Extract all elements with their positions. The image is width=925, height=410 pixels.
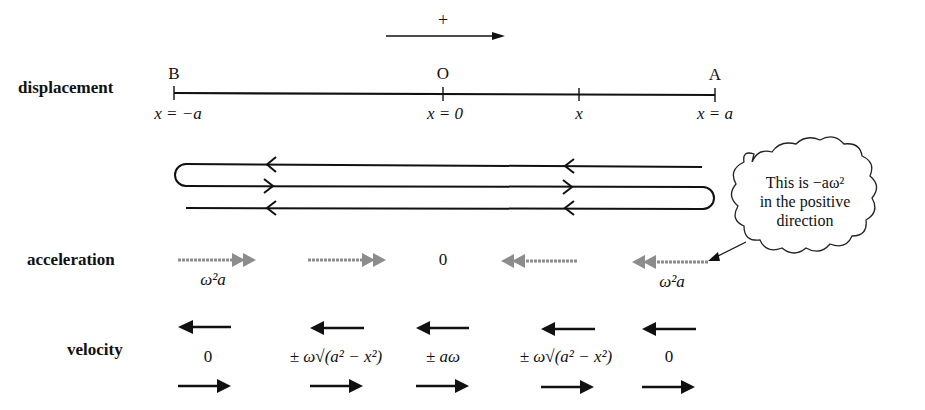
row-label-acceleration: acceleration bbox=[27, 250, 115, 270]
accel-arrow-right-1 bbox=[178, 253, 256, 267]
oscillation-path bbox=[175, 157, 714, 215]
accel-label-omega2a-right: ω²a bbox=[659, 272, 685, 292]
row-label-velocity: velocity bbox=[67, 340, 123, 360]
accel-arrow-left-2 bbox=[632, 255, 708, 269]
velocity-label-o: ± aω bbox=[426, 347, 460, 367]
position-label-a: x = a bbox=[697, 104, 733, 124]
positive-direction-label: + bbox=[438, 10, 448, 31]
displacement-axis bbox=[174, 86, 715, 102]
position-label-x: x bbox=[575, 104, 583, 124]
row-label-displacement: displacement bbox=[18, 78, 113, 98]
accel-label-zero: 0 bbox=[439, 250, 448, 270]
callout-line-3: direction bbox=[744, 211, 866, 230]
callout-pointer bbox=[708, 242, 746, 261]
velocity-left-arrows bbox=[178, 320, 696, 336]
position-label-minus-a: x = −a bbox=[154, 104, 202, 124]
velocity-label-a: 0 bbox=[665, 347, 674, 367]
position-label-zero: x = 0 bbox=[427, 104, 463, 124]
callout-text: This is −aω² in the positive direction bbox=[744, 173, 866, 230]
point-name-a: A bbox=[709, 65, 721, 85]
accel-arrow-right-2 bbox=[308, 253, 386, 267]
velocity-right-arrows bbox=[178, 379, 695, 394]
positive-direction-arrow bbox=[386, 32, 505, 40]
point-name-b: B bbox=[168, 64, 179, 84]
callout-line-1: This is −aω² bbox=[744, 173, 866, 192]
accel-arrow-left-1 bbox=[501, 254, 577, 268]
point-name-o: O bbox=[437, 64, 449, 84]
callout-line-2: in the positive bbox=[744, 192, 866, 211]
velocity-label-b: 0 bbox=[204, 347, 213, 367]
velocity-label-between-b-o: ± ω√(a² − x²) bbox=[290, 347, 382, 367]
velocity-label-between-o-a: ± ω√(a² − x²) bbox=[520, 347, 612, 367]
accel-label-omega2a-left: ω²a bbox=[200, 270, 226, 290]
